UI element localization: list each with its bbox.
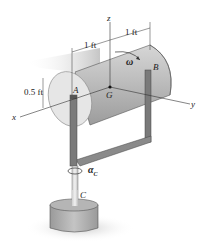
dimension-radius: 0.5 ft	[24, 88, 43, 97]
point-a-label: A	[73, 86, 79, 95]
x-axis-label: x	[12, 113, 16, 122]
base-cylinder	[50, 190, 98, 232]
point-c-label: C	[80, 191, 86, 200]
point-g-label: G	[106, 91, 113, 100]
point-b-label: B	[153, 63, 159, 72]
alpha-label: αC	[88, 165, 98, 177]
point-g-dot	[108, 85, 111, 88]
diagram-figure	[0, 0, 206, 251]
omega-label: ω	[126, 57, 133, 67]
y-axis-label: y	[191, 100, 195, 109]
z-axis-label: z	[107, 14, 111, 23]
dimension-1ft-right: 1 ft	[125, 28, 137, 37]
dimension-1ft-left: 1 ft	[84, 41, 96, 50]
